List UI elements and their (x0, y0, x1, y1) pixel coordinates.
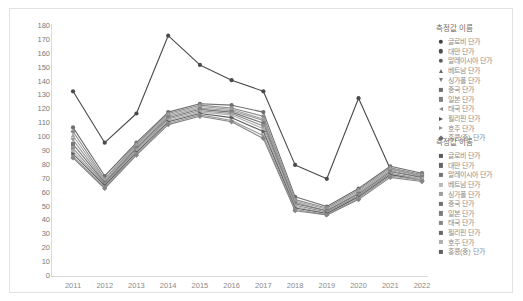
square-marker-icon (436, 170, 445, 179)
data-point (261, 110, 265, 114)
y-axis-tick: 60 (24, 189, 50, 197)
data-point (134, 111, 138, 115)
data-point (198, 63, 202, 67)
legend-bottom-label: 일본 단가 (448, 209, 474, 218)
y-axis-tick: 180 (24, 22, 50, 30)
legend-top-title: 측정값 이름 (436, 24, 523, 33)
circle-marker-icon (436, 37, 445, 46)
y-axis-tick: 170 (24, 36, 50, 44)
chart-card: 1801701601501401301201101009080706050403… (9, 8, 513, 293)
circle-marker-icon (436, 56, 445, 65)
legend-top-label: 일본 단가 (448, 95, 474, 104)
legend-bottom-title: 측정값 이름 (436, 138, 523, 147)
triright-marker-icon (436, 114, 445, 123)
square-marker-icon (436, 161, 445, 170)
legend-bottom-label: 말레이시아 단가 (448, 170, 492, 179)
series-lines (51, 24, 428, 277)
legend-bottom-item[interactable]: 호주 단가 (436, 237, 523, 247)
legend-top-label: 중국 단가 (448, 85, 474, 94)
x-axis-tick: 2020 (350, 281, 367, 290)
square-marker-icon (436, 228, 445, 237)
legend-bottom-item[interactable]: 글로비 단가 (436, 151, 523, 161)
legend-bottom-label: 베트남 단가 (448, 180, 480, 189)
y-axis-tick: 100 (24, 133, 50, 141)
data-point (230, 78, 234, 82)
legend-bottom-items: 글로비 단가대만 단가말레이시아 단가베트남 단가싱가폴 단가중국 단가일본 단… (436, 151, 523, 257)
y-axis-tick: 160 (24, 50, 50, 58)
series-line (73, 111, 422, 212)
y-axis-tick: 120 (24, 105, 50, 113)
y-axis-tick: 70 (24, 175, 50, 183)
y-axis-tick: 80 (24, 161, 50, 169)
legend-top[interactable]: 측정값 이름 글로비 단가대만 단가말레이시아 단가베트남 단가싱가폴 단가중국… (436, 24, 523, 143)
legend-bottom-label: 대만 단가 (448, 161, 474, 170)
legend-top-label: 베트남 단가 (448, 66, 480, 75)
square-marker-icon (436, 238, 445, 247)
legend-top-item[interactable]: 싱가폴 단가 (436, 75, 523, 85)
x-axis-tick: 2022 (414, 281, 431, 290)
chart-screenshot: 1801701601501401301201101009080706050403… (0, 0, 523, 301)
y-axis-tick: 50 (24, 203, 50, 211)
legend-top-items: 글로비 단가대만 단가말레이시아 단가베트남 단가싱가폴 단가중국 단가일본 단… (436, 37, 523, 143)
legend-top-item[interactable]: 글로비 단가 (436, 37, 523, 47)
x-axis-tick: 2013 (128, 281, 145, 290)
legend-top-item[interactable]: 중국 단가 (436, 85, 523, 95)
square-marker-icon (436, 151, 445, 160)
square-marker-icon (436, 199, 445, 208)
data-point (356, 96, 360, 100)
legend-bottom-label: 필리핀 단가 (448, 228, 480, 237)
legend-bottom-item[interactable]: 베트남 단가 (436, 180, 523, 190)
x-axis-labels: 2011201220132014201520162017201820192020… (51, 281, 433, 293)
legend-bottom-item[interactable]: 대만 단가 (436, 161, 523, 171)
y-axis-tick: 20 (24, 244, 50, 252)
x-axis-tick: 2012 (96, 281, 113, 290)
circle-marker-icon (436, 47, 445, 56)
legend-top-item[interactable]: 필리핀 단가 (436, 114, 523, 124)
data-point (325, 177, 329, 181)
legend-top-label: 태국 단가 (448, 104, 474, 113)
x-axis-tick: 2021 (382, 281, 399, 290)
y-axis-tick: 90 (24, 147, 50, 155)
square-marker-icon (436, 85, 445, 94)
x-axis-tick: 2014 (160, 281, 177, 290)
tridown-marker-icon (436, 76, 445, 85)
data-point (293, 163, 297, 167)
x-axis-tick: 2016 (223, 281, 240, 290)
x-axis-tick: 2011 (65, 281, 81, 290)
legend-bottom-label: 싱가폴 단가 (448, 190, 480, 199)
series-line (73, 105, 422, 208)
legend-bottom-item[interactable]: 싱가폴 단가 (436, 189, 523, 199)
legend-top-item[interactable]: 호주 단가 (436, 123, 523, 133)
x-axis-tick: 2015 (192, 281, 209, 290)
legend-bottom-item[interactable]: 일본 단가 (436, 209, 523, 219)
legend-bottom[interactable]: 측정값 이름 글로비 단가대만 단가말레이시아 단가베트남 단가싱가폴 단가중국… (436, 138, 523, 257)
series-line (73, 112, 422, 213)
legend-bottom-item[interactable]: 말레이시아 단가 (436, 170, 523, 180)
y-axis-tick: 0 (24, 272, 50, 280)
x-axis-tick: 2017 (255, 281, 272, 290)
legend-top-label: 글로비 단가 (448, 37, 480, 46)
legend-top-item[interactable]: 말레이시아 단가 (436, 56, 523, 66)
legend-bottom-item[interactable]: 중국 단가 (436, 199, 523, 209)
legend-top-item[interactable]: 대만 단가 (436, 47, 523, 57)
triright-marker-icon (436, 124, 445, 133)
legend-bottom-label: 태국 단가 (448, 218, 474, 227)
y-axis-tick: 10 (24, 258, 50, 266)
legend-bottom-item[interactable]: 필리핀 단가 (436, 228, 523, 238)
y-axis-tick: 30 (24, 230, 50, 238)
legend-bottom-label: 홍콩(중) 단가 (448, 247, 485, 256)
y-axis-tick: 40 (24, 216, 50, 224)
legend-bottom-item[interactable]: 홍콩(중) 단가 (436, 247, 523, 257)
data-point (71, 129, 75, 133)
legend-top-item[interactable]: 태국 단가 (436, 104, 523, 114)
legend-top-item[interactable]: 일본 단가 (436, 95, 523, 105)
legend-top-label: 말레이시아 단가 (448, 56, 492, 65)
data-point (71, 142, 75, 146)
square-marker-icon (436, 218, 445, 227)
legend-bottom-item[interactable]: 태국 단가 (436, 218, 523, 228)
legend-top-item[interactable]: 베트남 단가 (436, 66, 523, 76)
data-point (166, 34, 170, 38)
data-point (103, 141, 107, 145)
y-axis-labels: 1801701601501401301201101009080706050403… (24, 17, 50, 277)
square-marker-icon (436, 95, 445, 104)
